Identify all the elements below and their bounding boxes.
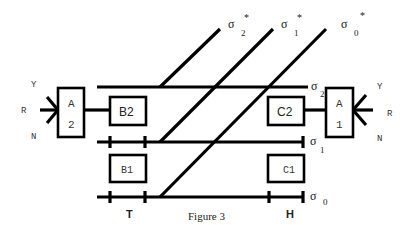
rail-sigma1-symbol: σ: [310, 134, 317, 148]
box-a2-top-label: A: [68, 98, 75, 110]
rail-sigma2-subscript: 2: [320, 89, 325, 99]
diagonal-sigma1-star-subscript: 1: [294, 28, 299, 38]
diagonal-sigma0-star-subscript: 0: [354, 28, 359, 38]
box-a1-top-label: A: [336, 98, 343, 110]
rail-sigma2-symbol: σ: [311, 79, 318, 93]
diagonal-sigma2-star-superscript: *: [244, 12, 249, 23]
box-a2-bottom-label: 2: [68, 119, 75, 131]
diagonal-sigma1-star-symbol: σ: [281, 17, 288, 31]
signal-right-r-label: R: [387, 109, 393, 119]
signal-left-r-label: R: [21, 106, 27, 116]
diagonal-sigma1-star-superscript: *: [297, 12, 302, 23]
rail-sigma1-subscript: 1: [320, 145, 325, 155]
rail-sigma0-subscript: 0: [323, 197, 328, 207]
signal-arrow-left-y: [47, 97, 58, 110]
signal-arrow-left-n: [47, 110, 58, 123]
box-b1-label: B1: [121, 165, 133, 176]
diagonal-sigma2-star: [160, 29, 220, 87]
diagonal-sigma2-star-symbol: σ: [228, 17, 235, 31]
signal-arrow-right-n: [353, 110, 366, 125]
box-c2-label: C2: [277, 105, 293, 119]
figure-caption: Figure 3: [188, 210, 225, 222]
rail-sigma0-symbol: σ: [310, 189, 317, 203]
signal-right-y-label: Y: [377, 82, 383, 92]
zone-h-label: H: [286, 208, 294, 220]
track-diagram: A 2 A 1 B2 B1 C2 C1 Y R N Y R N σ 2 σ 1 …: [0, 0, 412, 237]
box-b2-label: B2: [119, 105, 134, 119]
zone-t-label: T: [126, 208, 133, 220]
signal-left-y-label: Y: [31, 80, 37, 90]
signal-arrow-right-y: [353, 95, 366, 110]
diagonal-sigma0-star-symbol: σ: [341, 17, 348, 31]
diagonal-sigma2-star-subscript: 2: [241, 28, 246, 38]
box-c1-label: C1: [283, 165, 295, 176]
diagonal-sigma0-star-superscript: *: [360, 10, 365, 21]
box-a1-bottom-label: 1: [336, 119, 343, 131]
signal-left-n-label: N: [31, 132, 36, 142]
signal-right-n-label: N: [377, 134, 382, 144]
